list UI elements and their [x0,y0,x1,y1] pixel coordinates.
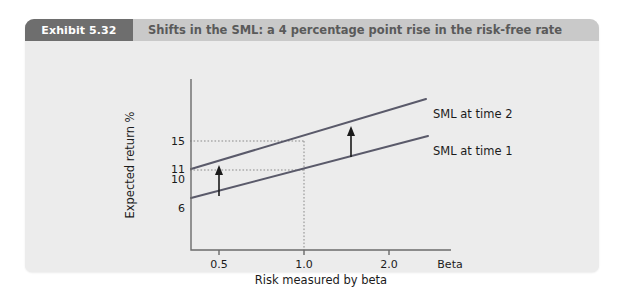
exhibit-card: Exhibit 5.32 Shifts in the SML: a 4 perc… [25,19,599,272]
exhibit-header: Exhibit 5.32 Shifts in the SML: a 4 perc… [25,19,599,41]
exhibit-title: Shifts in the SML: a 4 percentage point … [148,19,562,41]
exhibit-badge: Exhibit 5.32 [25,19,133,41]
xtick-label-1-0: 1.0 [295,258,313,271]
x-axis-title: Risk measured by beta [191,273,451,287]
xtick-label-2-0: 2.0 [380,258,398,271]
sml-line-time-2 [191,99,426,169]
exhibit-body: 15 11 10 6 0.5 1.0 2.0 Beta Expected ret… [25,41,599,272]
sml-chart-svg: 15 11 10 6 0.5 1.0 2.0 Beta Expected ret… [25,41,599,272]
ytick-label-6: 6 [178,202,185,215]
x-axis-end-label: Beta [437,258,462,271]
sml-chart: 15 11 10 6 0.5 1.0 2.0 Beta Expected ret… [25,41,599,272]
ytick-label-10: 10 [171,173,185,186]
series-label-sml-time-2: SML at time 2 [433,107,512,121]
ytick-label-15: 15 [171,135,185,148]
annotation-arrow-right [347,126,355,157]
xtick-label-0-5: 0.5 [210,258,228,271]
y-axis-title: Expected return % [123,111,137,218]
sml-line-time-1 [191,136,428,198]
series-label-sml-time-1: SML at time 1 [433,144,512,158]
exhibit-page: Exhibit 5.32 Shifts in the SML: a 4 perc… [0,0,622,296]
